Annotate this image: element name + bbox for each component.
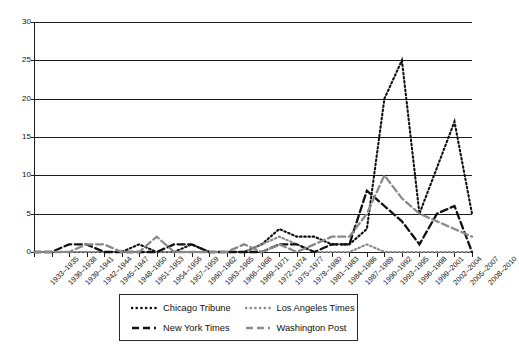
legend-label: Los Angeles Times [277,303,355,313]
gridline-20 [34,99,472,100]
legend-swatch-dotted-dark [131,303,157,312]
legend-swatch-dashed-dark [131,323,157,332]
y-tick-label-30: 30 [5,18,31,26]
gridline-25 [34,60,472,61]
legend-label: New York Times [163,323,230,333]
legend: Chicago Tribune Los Angeles Times New Yo… [119,294,358,341]
y-tick-label-10: 10 [5,171,31,179]
gridline-15 [34,137,472,138]
legend-label: Washington Post [277,323,347,333]
legend-swatch-dashed-light [245,323,271,332]
legend-item-los-angeles-times[interactable]: Los Angeles Times [239,298,358,318]
legend-item-new-york-times[interactable]: New York Times [120,318,239,338]
legend-item-washington-post[interactable]: Washington Post [239,318,358,338]
legend-item-chicago-tribune[interactable]: Chicago Tribune [120,298,239,318]
gridline-30 [34,22,472,23]
y-tick-label-25: 25 [5,56,31,64]
y-axis: 051015202530 [0,0,31,260]
legend-swatch-dotted-light [245,303,271,312]
y-tick-label-15: 15 [5,133,31,141]
y-tick-label-20: 20 [5,95,31,103]
gridline-5 [34,214,472,215]
gridline-10 [34,175,472,176]
plot-area [34,22,472,252]
legend-label: Chicago Tribune [163,303,231,313]
y-tick-label-5: 5 [5,210,31,218]
